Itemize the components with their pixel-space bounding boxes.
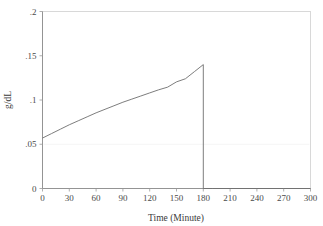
x-tick-label: 240 [250, 193, 264, 203]
x-axis-title: Time (Minute) [148, 213, 204, 224]
x-tick-label: 180 [197, 193, 211, 203]
x-tick-label: 150 [170, 193, 184, 203]
y-axis-title: g/dL [3, 91, 13, 109]
y-tick-label: .1 [30, 95, 37, 105]
y-tick-label: .15 [25, 51, 37, 61]
y-tick-label: 0 [32, 184, 37, 194]
x-tick-label: 90 [118, 193, 128, 203]
chart-figure: 0.05.1.15.2 0306090120150180210240270300… [0, 0, 323, 226]
x-tick-label: 0 [40, 193, 45, 203]
y-tick-label: .2 [30, 7, 37, 17]
x-tick-label: 60 [92, 193, 102, 203]
y-tick-label: .05 [25, 139, 37, 149]
figure-background [0, 0, 323, 226]
x-tick-label: 120 [143, 193, 157, 203]
x-tick-label: 210 [223, 193, 237, 203]
chart-svg: 0.05.1.15.2 0306090120150180210240270300… [0, 0, 323, 226]
x-tick-label: 300 [304, 193, 318, 203]
x-tick-label: 30 [65, 193, 75, 203]
x-tick-label: 270 [277, 193, 291, 203]
